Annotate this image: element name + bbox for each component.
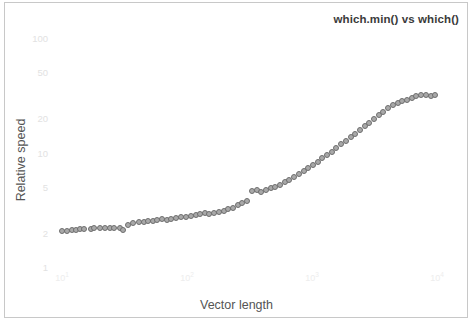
y-tick-label: 50: [24, 67, 48, 78]
data-point: [120, 227, 126, 233]
y-tick-label: 2: [24, 227, 48, 238]
data-point: [432, 92, 438, 98]
x-tick-label: 103: [305, 271, 319, 283]
data-point: [81, 226, 87, 232]
x-tick-label: 101: [55, 271, 69, 283]
chart-page: which.min() vs which() Relative speed Ve…: [0, 0, 473, 329]
y-tick-label: 100: [24, 33, 48, 44]
y-tick-label: 1: [24, 262, 48, 273]
plot-area: 100502010521101102103104: [0, 0, 473, 329]
data-point: [244, 198, 250, 204]
x-tick-label: 102: [180, 271, 194, 283]
x-tick-label: 104: [430, 271, 444, 283]
y-tick-label: 20: [24, 113, 48, 124]
data-point: [91, 225, 97, 231]
y-tick-label: 5: [24, 181, 48, 192]
data-point: [111, 225, 117, 231]
y-tick-label: 10: [24, 147, 48, 158]
